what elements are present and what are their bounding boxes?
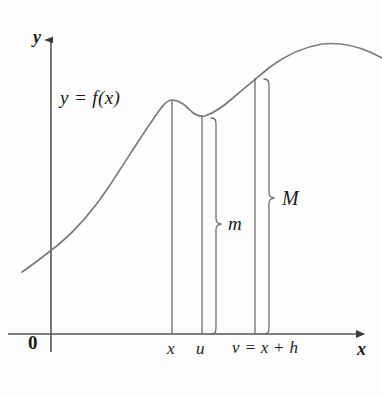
x-tick-label-v: v = x + h: [232, 339, 298, 356]
brace-m: [211, 118, 221, 334]
y-axis-label: y: [33, 28, 41, 46]
brace-label-m: m: [228, 214, 242, 233]
brace-M: [264, 79, 274, 334]
diagram-canvas: [0, 0, 382, 395]
math-figure: y x 0 y = f(x) x u v = x + h m M: [0, 0, 382, 395]
brace-label-M: M: [282, 188, 299, 208]
curve-label: y = f(x): [60, 88, 120, 107]
origin-label: 0: [28, 333, 38, 352]
x-tick-label-u: u: [196, 340, 205, 357]
x-axis-label: x: [357, 340, 366, 358]
x-tick-label-x: x: [167, 340, 175, 357]
